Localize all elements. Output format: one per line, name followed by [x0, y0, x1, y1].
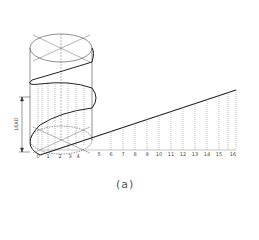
baseline-label: 2	[58, 153, 61, 159]
baseline-label: 10	[156, 151, 162, 157]
baseline-label: 5	[97, 151, 100, 157]
helix-curve	[30, 48, 96, 155]
baseline-label: 6	[109, 151, 112, 157]
baseline-label: 11	[168, 151, 174, 157]
baseline-labels: 012345678910111213141516	[36, 151, 236, 159]
lead-dimension	[19, 97, 30, 152]
baseline-label: 4	[76, 153, 79, 159]
baseline-label: 0	[36, 153, 39, 159]
baseline-label: 7	[121, 151, 124, 157]
cylinder	[30, 34, 92, 154]
baseline-label: 15	[216, 151, 222, 157]
baseline-label: 3	[68, 153, 71, 159]
baseline-label: 13	[192, 151, 198, 157]
baseline-label: 8	[133, 151, 136, 157]
figure-caption: (a)	[116, 178, 134, 191]
baseline-label: 9	[145, 151, 148, 157]
lead-label: LEAD	[13, 117, 19, 130]
baseline-label: 12	[180, 151, 186, 157]
baseline-label: 16	[230, 151, 236, 157]
baseline-label: 1	[46, 153, 49, 159]
baseline-label: 14	[204, 151, 210, 157]
development-triangle	[40, 90, 236, 155]
development-verticals	[111, 92, 228, 150]
